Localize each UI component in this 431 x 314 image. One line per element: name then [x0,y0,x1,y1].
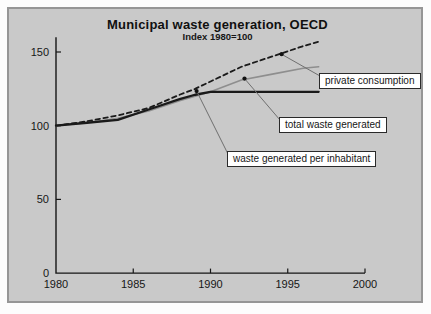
y-tick-label: 100 [31,120,49,132]
x-tick-label: 1995 [276,278,300,290]
callout-total-waste-generated: total waste generated [279,117,387,133]
anchor-dot-2 [194,89,198,93]
anchor-dot-0 [279,52,283,56]
callout-waste-per-inhabitant: waste generated per inhabitant [227,151,376,167]
x-tick-label: 1980 [44,278,68,290]
y-tick-label: 50 [37,193,49,205]
y-tick-label: 150 [31,46,49,58]
chart-title: Municipal waste generation, OECD [8,17,427,32]
leader-line-1 [244,79,280,120]
x-tick-label: 1985 [121,278,145,290]
anchor-dot-1 [242,76,246,80]
figure: 05010015019801985199019952000 Municipal … [0,0,431,314]
callout-private-consumption: private consumption [319,73,421,89]
series-line-0 [56,42,319,126]
chart-subtitle: Index 1980=100 [8,31,427,42]
x-tick-label: 1990 [198,278,222,290]
leader-line-2 [197,91,228,154]
leader-line-0 [282,54,320,76]
x-tick-label: 2000 [353,278,377,290]
